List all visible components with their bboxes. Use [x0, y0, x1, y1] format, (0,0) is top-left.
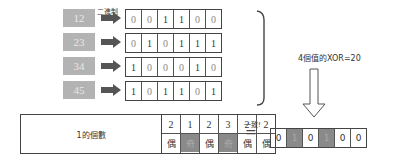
right-arrow-icon: [101, 60, 121, 72]
bit-cell: 1: [126, 82, 142, 100]
bit-cell: 0: [126, 10, 142, 28]
decimal-value: 34: [63, 57, 95, 75]
count-column: 3奇: [219, 115, 238, 153]
right-arrow-icon: [101, 36, 121, 48]
count-column: 1奇: [181, 115, 200, 153]
result-bit: 1: [287, 129, 303, 147]
bit-cell: 0: [158, 58, 174, 76]
right-arrow-icon: [101, 84, 121, 96]
bit-cell: 1: [126, 58, 142, 76]
count-column: 2偶: [200, 115, 219, 153]
bit-cell: 0: [190, 82, 206, 100]
decimal-value: 45: [63, 81, 95, 99]
bit-cell: 0: [190, 10, 206, 28]
bit-cell: 1: [174, 34, 190, 52]
result-bit: 0: [303, 129, 319, 147]
count-label: 1的個數: [21, 115, 162, 153]
bit-cell: 1: [142, 34, 158, 52]
bit-cell: 1: [190, 58, 206, 76]
down-arrow-icon: [302, 68, 326, 118]
parity-cell: 偶: [200, 134, 218, 152]
bit-cell: 1: [206, 82, 221, 100]
binary-row: 100010: [125, 57, 222, 77]
bit-cell: 0: [142, 10, 158, 28]
one-count: 3: [219, 115, 237, 134]
bit-cell: 1: [190, 34, 206, 52]
result-bit: 0: [351, 129, 366, 147]
one-count: 1: [181, 115, 199, 134]
parity-cell: 奇: [219, 134, 237, 152]
one-count: 2: [200, 115, 218, 134]
parity-cell: 偶: [162, 134, 180, 152]
bit-cell: 0: [206, 58, 221, 76]
xor-label: 4個值的XOR=20: [298, 52, 361, 63]
binary-row: 010111: [125, 33, 222, 53]
bit-cell: 1: [174, 82, 190, 100]
bit-cell: 0: [142, 58, 158, 76]
result-bit: 0: [335, 129, 351, 147]
bit-cell: 0: [174, 58, 190, 76]
bit-cell: 1: [158, 10, 174, 28]
count-table: 1的個數 2偶1奇2偶3奇2偶2偶: [20, 114, 276, 154]
binary-row: 101101: [125, 81, 222, 101]
right-arrow-icon: [101, 12, 121, 24]
decimal-value: 12: [63, 9, 95, 27]
bit-cell: 0: [158, 34, 174, 52]
bit-cell: 0: [126, 34, 142, 52]
equals-sign: =: [245, 124, 257, 140]
bracket: [256, 10, 272, 106]
bit-cell: 0: [142, 82, 158, 100]
bit-cell: 1: [158, 82, 174, 100]
parity-cell: 奇: [181, 134, 199, 152]
bit-cell: 1: [174, 10, 190, 28]
count-column: 2偶: [162, 115, 181, 153]
bit-cell: 0: [206, 10, 221, 28]
binary-row: 001100: [125, 9, 222, 29]
result-row: 010100: [270, 128, 367, 148]
bit-cell: 1: [206, 34, 221, 52]
decimal-value: 23: [63, 33, 95, 51]
one-count: 2: [162, 115, 180, 134]
result-bit: 1: [319, 129, 335, 147]
result-bit: 0: [271, 129, 287, 147]
